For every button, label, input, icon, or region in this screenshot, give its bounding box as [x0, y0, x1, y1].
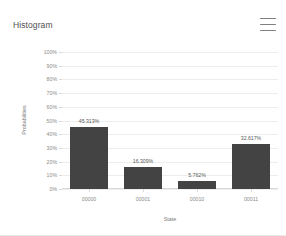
y-axis-tick-label: 30% — [47, 145, 57, 151]
y-axis-tick-label: 70% — [47, 90, 57, 96]
bar-00010[interactable] — [178, 181, 216, 189]
bar-00000[interactable] — [70, 127, 108, 189]
y-axis-tick-label: 60% — [47, 104, 57, 110]
y-axis-tick-label: 40% — [47, 131, 57, 137]
x-axis-tick-mark — [89, 189, 90, 192]
bar-value-label: 45.313% — [79, 118, 99, 124]
x-axis-tick-label: 00001 — [136, 196, 150, 202]
bar-00011[interactable] — [232, 144, 270, 189]
y-axis-tick-label: 80% — [47, 76, 57, 82]
bar-value-label: 16.309% — [133, 158, 153, 164]
bar-group: 16.309%00001 — [116, 52, 170, 189]
page-title: Histogram — [13, 20, 53, 30]
hamburger-line-3 — [260, 30, 276, 31]
bar-group: 45.313%00000 — [62, 52, 116, 189]
x-axis-label: State — [62, 216, 278, 222]
bar-value-label: 32.617% — [241, 135, 261, 141]
histogram-chart: Probabilities 0%10%20%30%40%50%60%70%80%… — [0, 44, 286, 236]
x-axis-tick-mark — [251, 189, 252, 192]
hamburger-line-1 — [260, 18, 276, 19]
hamburger-line-2 — [260, 24, 276, 25]
x-axis-tick-mark — [143, 189, 144, 192]
y-axis-tick-label: 20% — [47, 159, 57, 165]
y-axis-tick-label: 90% — [47, 63, 57, 69]
bar-series: 45.313%0000016.309%000015.762%0001032.61… — [62, 52, 278, 189]
bar-group: 5.762%00010 — [170, 52, 224, 189]
gridline — [62, 189, 278, 190]
bar-value-label: 5.762% — [188, 172, 206, 178]
y-axis-label: Probabilities — [21, 105, 27, 134]
y-axis-tick-label: 0% — [50, 186, 58, 192]
x-axis-tick-mark — [197, 189, 198, 192]
bar-00001[interactable] — [124, 167, 162, 189]
x-axis-tick-label: 00010 — [190, 196, 204, 202]
x-axis-tick-label: 00000 — [82, 196, 96, 202]
y-axis-tick-label: 50% — [47, 118, 57, 124]
hamburger-menu-icon[interactable] — [260, 18, 276, 31]
y-axis-tick-label: 100% — [44, 49, 57, 55]
bar-group: 32.617%00011 — [224, 52, 278, 189]
y-axis-tick-mark — [59, 189, 62, 190]
y-axis-tick-label: 10% — [47, 172, 57, 178]
histogram-card: Histogram Probabilities 0%10%20%30%40%50… — [0, 0, 286, 236]
x-axis-tick-label: 00011 — [244, 196, 258, 202]
card-header: Histogram — [0, 0, 286, 46]
plot-area: 0%10%20%30%40%50%60%70%80%90%100% 45.313… — [62, 52, 278, 189]
